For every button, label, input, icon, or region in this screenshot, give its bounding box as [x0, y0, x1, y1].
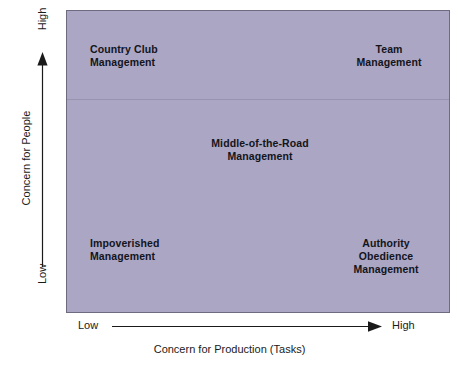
y-axis-arrow-icon: [36, 52, 49, 267]
panel-scan-line: [67, 99, 449, 100]
y-axis-high-label: High: [36, 0, 48, 47]
managerial-grid-diagram: Country Club Management Team Management …: [0, 0, 459, 369]
y-axis-title: Concern for People: [20, 88, 32, 228]
quadrant-label-country-club: Country Club Management: [90, 43, 158, 69]
quadrant-label-middle-of-the-road: Middle-of-the-Road Management: [185, 137, 335, 163]
x-axis-low-label: Low: [78, 319, 98, 331]
x-axis-arrow-icon: [112, 320, 382, 333]
quadrant-label-authority-obedience: Authority Obedience Management: [331, 237, 441, 276]
x-axis-title: Concern for Production (Tasks): [0, 343, 459, 355]
quadrant-label-impoverished: Impoverished Management: [90, 237, 159, 263]
x-axis-high-label: High: [392, 319, 415, 331]
grid-panel: Country Club Management Team Management …: [66, 10, 450, 313]
quadrant-label-team: Team Management: [341, 43, 437, 69]
